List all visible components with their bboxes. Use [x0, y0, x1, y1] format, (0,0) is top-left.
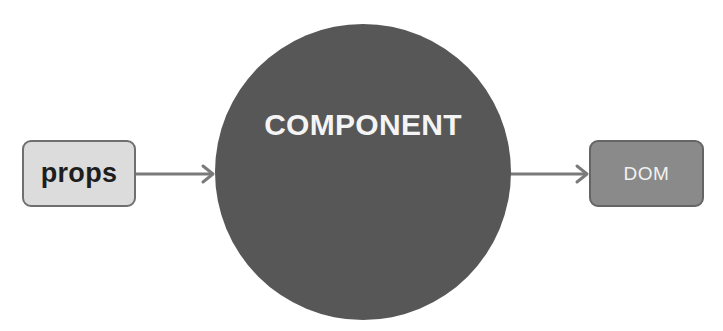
component-node: COMPONENT: [215, 24, 511, 320]
dom-node: DOM: [589, 140, 704, 207]
component-label: COMPONENT: [215, 108, 511, 142]
arrow-component-to-dom: [510, 166, 587, 182]
props-label: props: [41, 158, 118, 189]
props-node: props: [22, 140, 136, 207]
dom-label: DOM: [624, 163, 670, 185]
arrow-props-to-component: [136, 166, 213, 182]
